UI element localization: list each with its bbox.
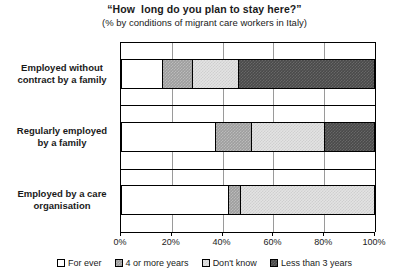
y-axis-category-label-line: organisation	[4, 200, 120, 212]
legend-swatch-icon	[115, 259, 123, 267]
x-axis-tick-100	[374, 232, 375, 236]
x-axis-tick-60	[272, 232, 273, 236]
bar-segment-forever	[121, 122, 215, 152]
legend-swatch-icon	[270, 259, 278, 267]
bar-row	[121, 122, 375, 152]
bar-segment-fourplus	[162, 59, 192, 89]
bar-segment-lessthan3	[324, 122, 375, 152]
x-axis-tick-label: 40%	[213, 237, 231, 247]
band-rule	[121, 169, 375, 170]
x-axis-tick-0	[120, 232, 121, 236]
band-rule	[121, 42, 375, 43]
x-axis-tick-label: 60%	[263, 237, 281, 247]
bar-segment-forever	[121, 185, 228, 215]
legend-item-label: For ever	[68, 258, 102, 268]
legend-swatch-icon	[57, 259, 65, 267]
y-axis-category-label-line: by a family	[4, 137, 120, 149]
y-axis-category-label: Employed withoutcontract by a family	[4, 62, 120, 86]
y-axis-category-label: Employed by a careorganisation	[4, 188, 120, 212]
x-axis-tick-label: 0%	[113, 237, 126, 247]
chart-legend: For ever4 or more yearsDon't knowLess th…	[0, 258, 409, 268]
bar-segment-forever	[121, 59, 162, 89]
x-axis-tick-label: 20%	[162, 237, 180, 247]
legend-item-label: Don't know	[213, 258, 257, 268]
plot-area	[120, 42, 375, 232]
chart-subtitle: (% by conditions of migrant care workers…	[0, 17, 409, 29]
bar-segment-fourplus	[228, 185, 241, 215]
legend-item-lessthan3[interactable]: Less than 3 years	[270, 258, 352, 268]
x-axis-tick-80	[323, 232, 324, 236]
legend-item-label: Less than 3 years	[281, 258, 352, 268]
y-axis-category-label-line: Employed without	[4, 62, 120, 74]
band-rule	[121, 232, 375, 233]
bar-row	[121, 59, 375, 89]
chart-title-block: “How long do you plan to stay here?” (% …	[0, 3, 409, 29]
bar-segment-dontknow	[251, 122, 325, 152]
x-axis-tick-40	[222, 232, 223, 236]
page-title: “How long do you plan to stay here?”	[0, 3, 409, 16]
x-axis-tick-label: 80%	[314, 237, 332, 247]
legend-swatch-icon	[202, 259, 210, 267]
band-rule	[121, 105, 375, 106]
bar-segment-lessthan3	[238, 59, 375, 89]
bar-segment-dontknow	[240, 185, 375, 215]
bar-segment-fourplus	[215, 122, 251, 152]
bar-segment-dontknow	[192, 59, 238, 89]
y-axis-category-label: Regularly employedby a family	[4, 125, 120, 149]
gridline-100	[375, 42, 376, 232]
bar-row	[121, 185, 375, 215]
legend-item-fourplus[interactable]: 4 or more years	[115, 258, 189, 268]
x-axis-tick-label: 100%	[362, 237, 385, 247]
y-axis-category-label-line: contract by a family	[4, 74, 120, 86]
legend-item-label: 4 or more years	[126, 258, 189, 268]
x-axis-tick-20	[171, 232, 172, 236]
legend-item-forever[interactable]: For ever	[57, 258, 102, 268]
legend-item-dontknow[interactable]: Don't know	[202, 258, 257, 268]
y-axis-category-label-line: Regularly employed	[4, 125, 120, 137]
y-axis-category-label-line: Employed by a care	[4, 188, 120, 200]
